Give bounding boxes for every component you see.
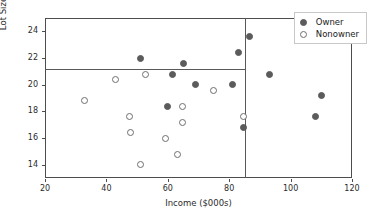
scatter-plot-figure: Lot Size (000s, ft²) Income ($000s) 2040… <box>0 0 377 219</box>
y-tick-label: 18 <box>8 106 38 115</box>
y-tick-label: 20 <box>8 80 38 89</box>
y-tick-mark <box>42 165 45 166</box>
data-point-owner <box>164 103 171 110</box>
y-tick-mark <box>42 31 45 32</box>
data-point-owner <box>312 113 319 120</box>
data-point-nonowner <box>126 113 133 120</box>
y-tick-label: 16 <box>8 133 38 142</box>
data-point-nonowner <box>179 103 186 110</box>
reference-line-lotsize-split <box>45 69 245 70</box>
x-tick-mark <box>168 179 169 182</box>
data-point-nonowner <box>240 113 247 120</box>
legend-item-owner: Owner <box>300 16 359 28</box>
data-point-nonowner <box>179 119 186 126</box>
x-tick-mark <box>106 179 107 182</box>
data-point-owner <box>246 33 253 40</box>
x-tick-label: 40 <box>91 184 121 193</box>
data-point-owner <box>235 49 242 56</box>
data-point-owner <box>240 124 247 131</box>
data-point-nonowner <box>127 129 134 136</box>
legend-label-owner: Owner <box>316 17 344 27</box>
x-tick-mark <box>291 179 292 182</box>
y-tick-label: 14 <box>8 160 38 169</box>
x-tick-label: 120 <box>337 184 367 193</box>
x-tick-mark <box>45 179 46 182</box>
nonowner-marker-icon <box>300 31 307 38</box>
data-point-owner <box>229 81 236 88</box>
data-point-nonowner <box>162 135 169 142</box>
data-point-owner <box>169 71 176 78</box>
data-point-owner <box>180 60 187 67</box>
data-point-owner <box>318 92 325 99</box>
y-tick-mark <box>42 111 45 112</box>
legend: Owner Nonowner <box>294 12 367 44</box>
data-point-nonowner <box>137 161 144 168</box>
data-point-owner <box>266 71 273 78</box>
data-point-nonowner <box>210 87 217 94</box>
y-axis-label: Lot Size (000s, ft²) <box>0 0 8 46</box>
reference-line-income-split <box>245 18 246 178</box>
owner-marker-icon <box>300 19 307 26</box>
legend-label-nonowner: Nonowner <box>316 29 359 39</box>
data-point-nonowner <box>112 76 119 83</box>
legend-item-nonowner: Nonowner <box>300 28 359 40</box>
x-tick-mark <box>229 179 230 182</box>
x-axis-label: Income ($000s) <box>45 198 352 208</box>
x-tick-mark <box>352 179 353 182</box>
data-point-nonowner <box>142 71 149 78</box>
y-tick-mark <box>42 138 45 139</box>
x-tick-label: 80 <box>214 184 244 193</box>
y-tick-mark <box>42 85 45 86</box>
x-tick-label: 60 <box>153 184 183 193</box>
y-tick-mark <box>42 58 45 59</box>
data-point-owner <box>137 55 144 62</box>
x-tick-label: 100 <box>276 184 306 193</box>
data-point-nonowner <box>174 151 181 158</box>
y-tick-label: 22 <box>8 53 38 62</box>
x-tick-label: 20 <box>30 184 60 193</box>
y-tick-label: 24 <box>8 26 38 35</box>
